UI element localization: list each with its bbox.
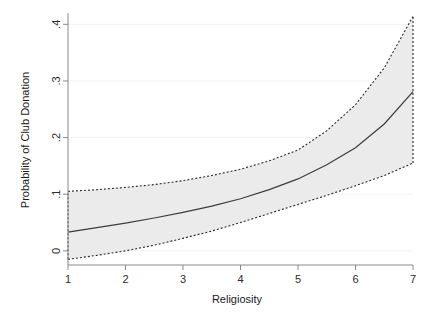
y-tick-label: 0 — [50, 248, 62, 254]
x-tick-label: 7 — [410, 273, 416, 285]
x-tick-label: 2 — [122, 273, 128, 285]
y-axis-title: Probability of Club Donation — [19, 72, 31, 208]
y-tick-label: .1 — [50, 190, 62, 199]
chart-figure: 0.1.2.3.4 1234567 Religiosity Probabilit… — [0, 0, 440, 323]
probability-of-club-donation-chart: 0.1.2.3.4 1234567 Religiosity Probabilit… — [0, 0, 440, 323]
y-tick-label: .3 — [50, 76, 62, 85]
y-tick-label: .4 — [50, 20, 62, 29]
x-tick-label: 4 — [237, 273, 243, 285]
x-axis-title: Religiosity — [212, 293, 263, 305]
y-tick-label: .2 — [50, 133, 62, 142]
x-tick-label: 6 — [352, 273, 358, 285]
x-tick-label: 5 — [295, 273, 301, 285]
x-tick-label: 1 — [65, 273, 71, 285]
x-tick-label: 3 — [180, 273, 186, 285]
